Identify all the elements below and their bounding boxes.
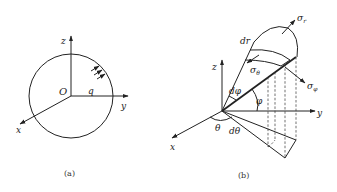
x-label-b: x — [170, 142, 175, 152]
dr-label: dr — [240, 36, 251, 46]
element-inner-arc — [250, 50, 290, 60]
theta-label: θ — [215, 123, 221, 133]
theta-arc — [210, 117, 232, 121]
load-label: q — [88, 86, 94, 96]
x-label-a: x — [16, 125, 21, 135]
z-label-a: z — [60, 36, 66, 46]
sigma-theta-arrow — [247, 55, 259, 63]
projection-far-edge — [285, 140, 296, 158]
dphi-label: dφ — [229, 86, 242, 96]
caption-b: (b) — [238, 171, 249, 180]
x-axis — [20, 96, 71, 124]
caption-a: (a) — [64, 169, 75, 178]
z-label-b: z — [211, 62, 217, 72]
diagram-canvas: z y x O q (a) — [0, 0, 337, 192]
sigma-r-label: σr — [297, 13, 307, 24]
sigma-phi-arrow — [285, 67, 305, 83]
phi-label: φ — [256, 96, 263, 106]
dphi-arc — [229, 96, 236, 100]
y-label-a: y — [120, 101, 127, 111]
dtheta-label: dθ — [229, 126, 241, 136]
sigma-theta-label: σθ — [250, 65, 260, 76]
sigma-phi-label: σφ — [307, 81, 318, 93]
figure-b: z y x dr σr σθ σφ dφ φ θ dθ (b) — [170, 13, 323, 180]
element-upper-edge — [222, 42, 254, 111]
figure-a: z y x O q (a) — [16, 36, 128, 178]
origin-label: O — [59, 86, 67, 97]
y-label-b: y — [316, 108, 323, 118]
projection-dash-arc — [268, 140, 275, 147]
